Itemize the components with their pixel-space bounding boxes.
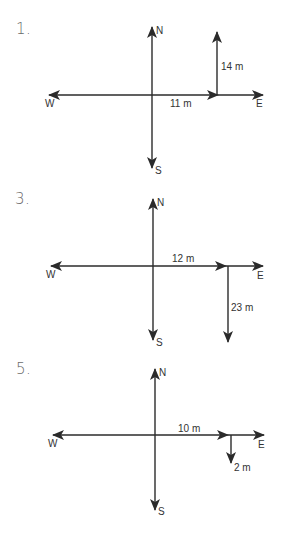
east-vector-label: 12 m	[172, 253, 194, 264]
south-label: S	[155, 165, 162, 176]
south-vector-label: 23 m	[231, 302, 253, 313]
problem-1: 1. N S W E 11 m 14 m	[0, 0, 288, 180]
vector-diagram: N S W E 11 m 14 m	[0, 0, 288, 180]
problem-5: 5. N S W E 10 m 2 m	[0, 360, 288, 541]
east-vector-label: 11 m	[170, 98, 192, 109]
north-label: N	[156, 25, 163, 36]
south-label: S	[156, 337, 163, 348]
problem-3: 3. N S W E 12 m 23 m	[0, 180, 288, 360]
west-label: W	[46, 269, 56, 280]
north-label: N	[159, 367, 166, 378]
north-vector-label: 14 m	[221, 61, 243, 72]
south-label: S	[158, 506, 165, 517]
east-label: E	[258, 439, 265, 450]
west-label: W	[48, 438, 58, 449]
vector-diagram: N S W E 12 m 23 m	[0, 180, 288, 360]
south-vector-label: 2 m	[234, 462, 251, 473]
east-label: E	[257, 270, 264, 281]
west-label: W	[45, 98, 55, 109]
east-label: E	[256, 98, 263, 109]
vector-diagram: N S W E 10 m 2 m	[0, 360, 288, 541]
north-label: N	[157, 197, 164, 208]
east-vector-label: 10 m	[178, 423, 200, 434]
